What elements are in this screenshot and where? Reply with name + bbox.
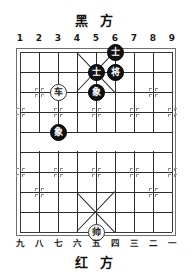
star-point	[130, 108, 139, 117]
xiangqi-board: 黑 方 123456789 士士将象车象帅 九八七六五四三二一 红 方	[0, 0, 192, 274]
grid-hline-5	[20, 152, 172, 153]
file-labels-bottom: 九八七六五四三二一	[0, 236, 192, 248]
star-point	[149, 88, 158, 97]
river	[21, 133, 172, 151]
file-label-top-3: 3	[51, 33, 65, 43]
grid-vline-9	[172, 52, 173, 232]
star-point	[130, 168, 139, 177]
black-side-label: 黑 方	[0, 10, 192, 29]
star-point	[168, 108, 177, 117]
red-side-label: 红 方	[0, 252, 192, 271]
star-point	[54, 108, 63, 117]
file-label-bottom-8: 一	[165, 236, 179, 248]
black-elephant-2[interactable]: 象	[50, 124, 67, 141]
file-label-top-1: 1	[13, 33, 27, 43]
file-label-top-6: 6	[108, 33, 122, 43]
file-label-bottom-0: 九	[13, 236, 27, 248]
file-label-bottom-7: 二	[146, 236, 160, 248]
star-point	[92, 108, 101, 117]
file-label-bottom-6: 三	[127, 236, 141, 248]
red-chariot[interactable]: 车	[50, 84, 67, 101]
black-advisor-1[interactable]: 士	[107, 44, 124, 61]
star-point	[92, 168, 101, 177]
file-label-top-4: 4	[70, 33, 84, 43]
black-elephant-1[interactable]: 象	[88, 84, 105, 101]
file-label-top-9: 9	[165, 33, 179, 43]
star-point	[16, 108, 25, 117]
grid-hline-0	[20, 52, 172, 53]
file-label-top-7: 7	[127, 33, 141, 43]
black-general[interactable]: 将	[107, 64, 124, 81]
file-label-bottom-2: 七	[51, 236, 65, 248]
star-point	[16, 168, 25, 177]
file-label-bottom-1: 八	[32, 236, 46, 248]
file-label-bottom-5: 四	[108, 236, 122, 248]
file-label-bottom-3: 六	[70, 236, 84, 248]
file-labels-top: 123456789	[0, 33, 192, 45]
file-label-top-2: 2	[32, 33, 46, 43]
star-point	[35, 188, 44, 197]
file-label-top-8: 8	[146, 33, 160, 43]
star-point	[168, 168, 177, 177]
black-advisor-2[interactable]: 士	[88, 64, 105, 81]
board-grid: 士士将象车象帅	[20, 52, 172, 232]
star-point	[35, 88, 44, 97]
file-label-bottom-4: 五	[89, 236, 103, 248]
star-point	[149, 188, 158, 197]
file-label-top-5: 5	[89, 33, 103, 43]
star-point	[54, 168, 63, 177]
